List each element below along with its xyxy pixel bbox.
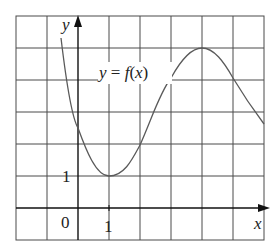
y-axis-arrow-icon	[74, 15, 82, 27]
curve-f	[61, 38, 264, 176]
axes	[16, 22, 262, 240]
origin-label: 0	[61, 213, 70, 232]
function-graph: y x 0 1 1 y = f(x)	[0, 0, 277, 249]
x-tick-label: 1	[104, 217, 113, 236]
x-axis-label: x	[253, 214, 262, 233]
y-tick-label: 1	[62, 167, 71, 186]
grid	[16, 16, 264, 240]
curve-label: y = f(x)	[97, 63, 148, 82]
curve-label-equals: =	[107, 63, 125, 82]
y-axis-label: y	[60, 15, 70, 34]
